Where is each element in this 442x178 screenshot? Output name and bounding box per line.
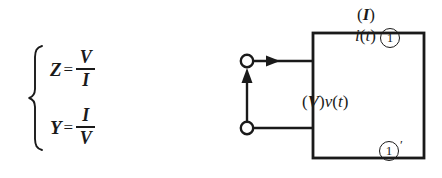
- paren-close: ): [369, 5, 375, 24]
- impedance-numerator: V: [77, 48, 95, 67]
- admittance-fraction: I V: [75, 106, 96, 149]
- equations-group: Z = V I Y = I V: [26, 42, 151, 154]
- equation-admittance: Y = I V: [50, 104, 151, 150]
- voltage-phasor-symbol: V: [308, 92, 319, 111]
- impedance-denominator: I: [79, 71, 92, 90]
- one-port-circuit: (I) i(t) (V)v(t) 1 1′: [150, 0, 442, 178]
- admittance-symbol: Y: [50, 118, 63, 137]
- terminal-node-bottom: [241, 122, 253, 134]
- circled-number: 1: [379, 141, 399, 161]
- paren-close: ): [370, 26, 376, 45]
- terminal-label-1-prime: 1′: [379, 138, 403, 161]
- terminal-label-1: 1: [380, 28, 400, 48]
- current-time-label: i(t): [355, 27, 376, 44]
- equations-stack: Z = V I Y = I V: [48, 46, 151, 150]
- current-arrowhead: [266, 56, 280, 67]
- circuit-figure: Z = V I Y = I V: [0, 0, 442, 178]
- impedance-symbol: Z: [50, 60, 63, 79]
- circled-number: 1: [380, 28, 400, 48]
- prime-mark: ′: [399, 137, 403, 152]
- impedance-fraction: V I: [75, 48, 96, 91]
- voltage-arrowhead: [242, 68, 253, 83]
- paren-close: ): [343, 92, 349, 111]
- impedance-equals: =: [63, 61, 76, 78]
- admittance-denominator: V: [77, 129, 95, 148]
- terminal-node-top: [241, 55, 253, 67]
- left-curly-brace: [26, 44, 48, 152]
- equation-impedance: Z = V I: [50, 46, 151, 92]
- admittance-numerator: I: [79, 106, 92, 125]
- current-phasor-label: (I): [357, 6, 375, 23]
- voltage-label: (V)v(t): [302, 93, 348, 110]
- admittance-equals: =: [63, 119, 76, 136]
